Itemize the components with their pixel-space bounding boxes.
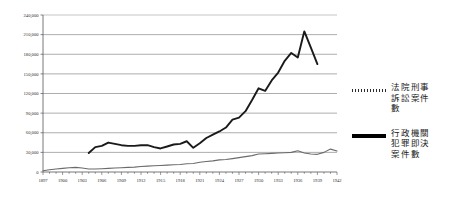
y-axis-tick-label: 30,000 bbox=[26, 150, 39, 156]
y-axis-tick-label: 240,000 bbox=[24, 13, 40, 19]
series-line-court bbox=[89, 31, 318, 153]
legend-label-court-line-3: 數 bbox=[391, 103, 401, 113]
x-axis-tick-label: 1900 bbox=[58, 178, 68, 183]
solid-line-swatch-icon bbox=[352, 131, 386, 141]
x-axis-tick-label: 1930 bbox=[254, 178, 264, 183]
x-axis-tick-label: 1921 bbox=[195, 178, 205, 183]
x-axis-tick-label: 1897 bbox=[38, 178, 48, 183]
chart-figure: 030,00060,00090,000120,000150,000180,000… bbox=[0, 0, 457, 199]
legend-label-court: 法院刑事 訴訟案件 數 bbox=[391, 82, 430, 114]
y-axis-tick-label: 90,000 bbox=[26, 111, 39, 117]
y-axis-tick-label: 120,000 bbox=[24, 91, 40, 97]
legend-label-administrative: 行政機關 犯罪即決 案件數 bbox=[391, 128, 430, 160]
y-axis-tick-label: 150,000 bbox=[24, 72, 40, 78]
x-axis-tick-label: 1924 bbox=[215, 178, 225, 183]
hatched-line-swatch-icon bbox=[352, 85, 386, 95]
chart-plot-area: 030,00060,00090,000120,000150,000180,000… bbox=[0, 0, 350, 199]
x-axis-tick-label: 1903 bbox=[78, 178, 88, 183]
legend-label-admin-line-1: 行政機關 bbox=[391, 128, 430, 138]
legend-entry-court: 法院刑事 訴訟案件 數 bbox=[352, 82, 457, 114]
x-axis-tick-label: 1906 bbox=[97, 178, 107, 183]
x-axis-tick-label: 1909 bbox=[117, 178, 127, 183]
chart-legend: 法院刑事 訴訟案件 數 行政機關 犯罪即決 案件數 bbox=[352, 82, 457, 192]
y-axis-tick-label: 60,000 bbox=[26, 130, 39, 136]
x-axis-tick-label: 1912 bbox=[136, 178, 146, 183]
y-axis-tick-label: 180,000 bbox=[24, 52, 40, 58]
legend-label-admin-line-3: 案件數 bbox=[391, 149, 420, 159]
legend-label-court-line-1: 法院刑事 bbox=[391, 82, 430, 92]
y-axis-ticks-group: 030,00060,00090,000120,000150,000180,000… bbox=[24, 13, 43, 175]
legend-label-court-line-2: 訴訟案件 bbox=[391, 93, 430, 103]
x-axis-tick-label: 1942 bbox=[332, 178, 342, 183]
legend-entry-administrative: 行政機關 犯罪即決 案件數 bbox=[352, 128, 457, 160]
x-axis-tick-label: 1933 bbox=[274, 178, 284, 183]
x-axis-tick-label: 1915 bbox=[156, 178, 166, 183]
x-axis-ticks-group: 1897190019031906190919121915191819211924… bbox=[38, 172, 342, 183]
gridlines-group bbox=[43, 15, 337, 152]
x-axis-tick-label: 1918 bbox=[176, 178, 186, 183]
x-axis-tick-label: 1939 bbox=[313, 178, 323, 183]
y-axis-tick-label: 210,000 bbox=[24, 32, 40, 38]
x-axis-tick-label: 1927 bbox=[234, 178, 244, 183]
legend-label-admin-line-2: 犯罪即決 bbox=[391, 138, 430, 148]
line-chart-svg: 030,00060,00090,000120,000150,000180,000… bbox=[0, 0, 350, 199]
y-axis-tick-label: 0 bbox=[36, 170, 39, 175]
x-axis-tick-label: 1936 bbox=[293, 178, 303, 183]
